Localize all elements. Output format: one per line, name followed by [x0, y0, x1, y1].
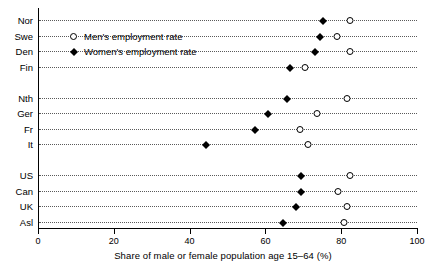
row-label-asl: Asl [0, 217, 33, 229]
data-point-women-den [311, 48, 319, 52]
employment-rate-dot-chart: NorSweDenFinNthGerFrItUSCanUKAsl 0204060… [0, 0, 446, 272]
gridline [39, 98, 417, 100]
x-tick-80 [341, 229, 342, 234]
legend-item-women: Women's employment rate [70, 45, 220, 60]
gridline [39, 206, 417, 208]
x-axis-title: Share of male or female population age 1… [0, 250, 446, 261]
data-point-women-fr [251, 126, 259, 130]
open-circle-icon [70, 33, 77, 40]
gridline [39, 191, 417, 193]
x-tick-40 [190, 229, 191, 234]
row-label-can: Can [0, 186, 33, 198]
chart-legend: Men's employment rate Women's employment… [70, 30, 220, 60]
data-point-women-can [297, 188, 305, 192]
row-label-fin: Fin [0, 62, 33, 74]
x-tick-label-40: 40 [185, 236, 195, 247]
data-point-men-den [346, 48, 353, 55]
chart-row-ger: Ger [0, 108, 446, 120]
chart-row-uk: UK [0, 201, 446, 213]
data-point-men-ger [313, 110, 320, 117]
x-tick-20 [114, 229, 115, 234]
data-point-women-fin [286, 64, 294, 68]
data-point-men-asl [340, 219, 347, 226]
legend-label-women: Women's employment rate [84, 45, 197, 59]
gridline [39, 222, 417, 224]
data-point-men-nor [346, 17, 353, 24]
chart-row-nor: Nor [0, 15, 446, 27]
data-point-women-asl [279, 219, 287, 223]
gridline [39, 175, 417, 177]
data-point-men-can [334, 188, 341, 195]
chart-row-it: It [0, 139, 446, 151]
row-label-us: US [0, 170, 33, 182]
x-tick-0 [38, 229, 39, 234]
x-tick-label-100: 100 [409, 236, 424, 247]
data-point-men-swe [333, 33, 340, 40]
data-point-women-swe [316, 33, 324, 37]
gridline [39, 129, 417, 131]
row-label-fr: Fr [0, 124, 33, 136]
chart-row-fr: Fr [0, 124, 446, 136]
row-label-den: Den [0, 46, 33, 58]
row-label-nor: Nor [0, 15, 33, 27]
data-point-men-fr [296, 126, 303, 133]
gridline [39, 144, 417, 146]
chart-row-can: Can [0, 186, 446, 198]
row-label-swe: Swe [0, 31, 33, 43]
data-point-men-us [346, 172, 353, 179]
data-point-men-fin [301, 64, 308, 71]
x-tick-label-60: 60 [260, 236, 270, 247]
legend-item-men: Men's employment rate [70, 30, 220, 45]
chart-row-asl: Asl [0, 217, 446, 229]
chart-row-fin: Fin [0, 62, 446, 74]
x-tick-60 [265, 229, 266, 234]
x-tick-label-0: 0 [35, 236, 40, 247]
row-label-nth: Nth [0, 93, 33, 105]
gridline [39, 113, 417, 115]
data-point-men-nth [344, 95, 351, 102]
data-point-men-it [304, 141, 311, 148]
chart-row-nth: Nth [0, 93, 446, 105]
data-point-men-uk [344, 203, 351, 210]
chart-row-den: Den [0, 46, 446, 58]
data-point-women-nth [283, 95, 291, 99]
row-label-it: It [0, 139, 33, 151]
gridline [39, 67, 417, 69]
chart-row-swe: Swe [0, 31, 446, 43]
gridline [39, 20, 417, 22]
filled-diamond-icon [70, 48, 78, 52]
row-label-ger: Ger [0, 108, 33, 120]
data-point-women-nor [319, 17, 327, 21]
data-point-women-ger [264, 110, 272, 114]
data-point-women-uk [292, 203, 300, 207]
x-tick-label-80: 80 [336, 236, 346, 247]
x-tick-100 [417, 229, 418, 234]
data-point-women-it [202, 141, 210, 145]
data-point-women-us [297, 172, 305, 176]
x-tick-label-20: 20 [109, 236, 119, 247]
chart-row-us: US [0, 170, 446, 182]
legend-label-men: Men's employment rate [84, 30, 182, 44]
row-label-uk: UK [0, 201, 33, 213]
